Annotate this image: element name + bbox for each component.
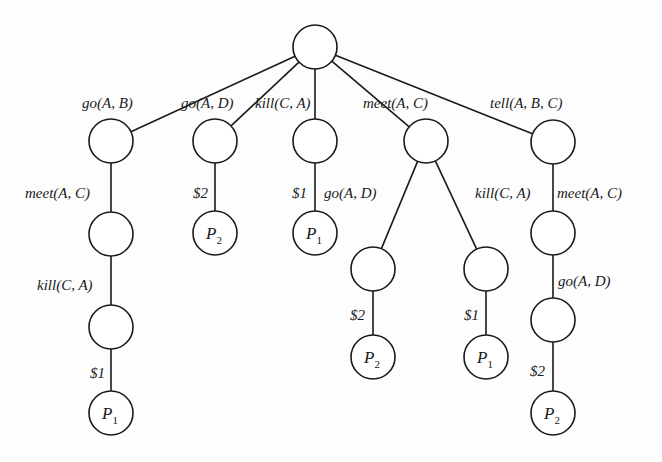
edge-label: $2 <box>193 185 209 201</box>
edge-label: meet(A, C) <box>557 185 622 202</box>
edge-label: go(A, D) <box>181 95 234 112</box>
tree-node <box>293 119 337 163</box>
tree-edge <box>435 161 476 249</box>
edge-label: $1 <box>464 307 479 323</box>
edge-label: go(A, D) <box>324 185 377 202</box>
tree-node <box>531 211 575 255</box>
tree-edge <box>381 161 417 248</box>
edge-label: $1 <box>292 185 307 201</box>
edge-label: kill(C, A) <box>255 95 311 112</box>
tree-node <box>464 247 508 291</box>
edge-label: $1 <box>90 365 105 381</box>
tree-node <box>89 305 133 349</box>
edge-label: meet(A, C) <box>363 95 428 112</box>
tree-node <box>89 212 133 256</box>
tree-edge <box>332 61 409 127</box>
tree-node <box>531 298 575 342</box>
edge-label: $2 <box>350 307 366 323</box>
tree-node <box>293 25 337 69</box>
game-tree-diagram: P1P2P1P2P1P2 go(A, B)go(A, D)kill(C, A)m… <box>0 0 662 462</box>
tree-svg: P1P2P1P2P1P2 go(A, B)go(A, D)kill(C, A)m… <box>0 0 662 462</box>
tree-node <box>89 119 133 163</box>
tree-edge <box>231 62 299 126</box>
tree-node <box>351 247 395 291</box>
nodes-layer: P1P2P1P2P1P2 <box>89 25 575 435</box>
tree-node <box>193 119 237 163</box>
edge-label: tell(A, B, C) <box>490 95 562 112</box>
tree-node <box>404 119 448 163</box>
tree-node <box>531 120 575 164</box>
edge-label: go(A, B) <box>82 95 133 112</box>
edge-label: kill(C, A) <box>37 277 93 294</box>
edge-label: meet(A, C) <box>25 185 90 202</box>
edge-label: go(A, D) <box>558 273 611 290</box>
edge-label: $2 <box>530 363 546 379</box>
edge-label: kill(C, A) <box>475 185 531 202</box>
